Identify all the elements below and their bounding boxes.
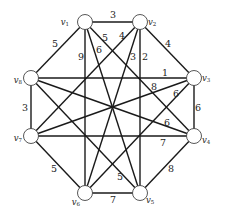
edge-weight-v1-v5: 6 (96, 44, 102, 55)
edge-weight-v3-v4: 6 (195, 102, 201, 113)
vertex-v3 (187, 71, 202, 86)
edge-weight-v8-v1: 5 (52, 38, 58, 49)
vertex-v7 (24, 129, 39, 144)
vertex-v6 (78, 186, 93, 201)
vertices: v1v2v3v4v5v6v7v8 (14, 15, 211, 208)
vertex-label-v6: v6 (72, 197, 81, 207)
vertex-label-v4: v4 (202, 135, 211, 145)
edge-weight-v7-v4: 7 (160, 137, 166, 148)
vertex-v8 (24, 71, 39, 86)
edge-v8-v1 (31, 22, 85, 78)
edge-v6-v7 (31, 136, 85, 193)
vertex-label-v2: v2 (148, 17, 156, 27)
weighted-graph: 34687535965432186675 v1v2v3v4v5v6v7v8 (0, 0, 225, 210)
edge-weight-v2-v6: 3 (130, 51, 136, 62)
edge-weight-v1-v4: 5 (102, 32, 108, 43)
vertex-label-v8: v8 (14, 75, 23, 85)
edge-weight-v8-v5: 5 (117, 171, 123, 182)
edge-weight-v2-v7: 4 (119, 30, 125, 41)
edge-weight-v5-v6: 7 (110, 194, 116, 205)
vertex-v1 (78, 15, 93, 30)
vertex-label-v7: v7 (14, 133, 23, 143)
edge-weight-v6-v7: 5 (51, 163, 57, 174)
edge-weight-v7-v8: 3 (22, 102, 28, 113)
edge-weight-v8-v4: 6 (164, 117, 170, 128)
vertex-label-v3: v3 (202, 73, 211, 83)
edge-weight-v1-v2: 3 (110, 9, 116, 20)
edge-weight-v6-v3: 6 (173, 88, 179, 99)
edge-weight-v4-v5: 8 (168, 163, 174, 174)
vertex-label-v1: v1 (61, 17, 69, 27)
edge-weight-v1-v6: 9 (78, 51, 84, 62)
edge-weight-v2-v5: 2 (142, 51, 148, 62)
edge-weight-v7-v3: 8 (151, 81, 157, 92)
vertex-v2 (133, 15, 148, 30)
edge-weight-v8-v3: 1 (162, 67, 168, 78)
edge-weight-v2-v3: 4 (165, 38, 171, 49)
vertex-v4 (187, 129, 202, 144)
vertex-label-v5: v5 (146, 195, 155, 205)
